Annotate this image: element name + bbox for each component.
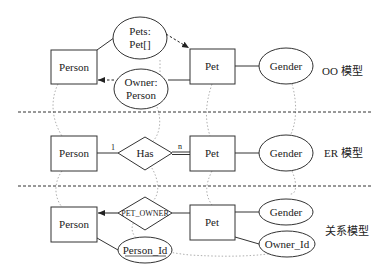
- section-label-oo: OO 模型: [322, 64, 363, 77]
- rel-person-id-label: Person_Id: [123, 244, 168, 256]
- oo-pets-arrow: [166, 34, 189, 48]
- oo-person-label: Person: [59, 61, 89, 73]
- rel-owner-id-label: Owner_Id: [265, 238, 310, 250]
- er-person-label: Person: [59, 147, 89, 159]
- oo-model: Person Pets: Pet[] Owner: Person Pet Gen…: [51, 17, 363, 109]
- rel-pet-label: Pet: [205, 216, 219, 228]
- er-has-label: Has: [136, 147, 153, 159]
- section-label-relational: 关系模型: [325, 224, 369, 237]
- section-label-er: ER 模型: [324, 146, 363, 159]
- er-pet-label: Pet: [205, 147, 219, 159]
- er-cardinality-n: n: [178, 142, 182, 151]
- oo-pet-label: Pet: [205, 60, 219, 72]
- oo-pets-label-1: Pets:: [129, 25, 150, 37]
- relational-model: Person PET_OWNER Pet Gender Owner_Id Per…: [51, 197, 369, 263]
- rel-gender-label: Gender: [270, 206, 303, 218]
- oo-pets-label-2: Pet[]: [129, 38, 150, 50]
- er-gender-label: Gender: [270, 147, 303, 159]
- diagram-canvas: Person Pets: Pet[] Owner: Person Pet Gen…: [0, 0, 379, 275]
- oo-gender-label: Gender: [270, 60, 303, 72]
- er-model: Person 1 Has n Pet Gender ER 模型: [51, 135, 363, 171]
- er-cardinality-1: 1: [111, 143, 115, 152]
- rel-person-label: Person: [59, 218, 89, 230]
- oo-owner-label-2: Person: [126, 89, 156, 101]
- rel-pet-owner-label: PET_OWNER: [121, 209, 169, 218]
- oo-owner-label-1: Owner:: [125, 76, 158, 88]
